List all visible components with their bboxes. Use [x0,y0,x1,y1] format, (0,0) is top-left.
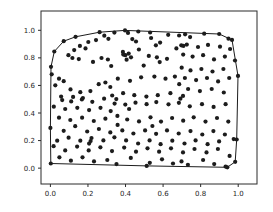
scatter-point [158,60,162,64]
scatter-point [204,150,208,154]
scatter-point [179,159,183,163]
scatter-point [165,57,169,61]
scatter-point [68,118,72,122]
scatter-point [97,82,101,86]
scatter-point [99,56,103,60]
scatter-point [221,67,225,71]
scatter-point [156,93,160,97]
scatter-point [154,132,158,136]
scatter-point [80,155,84,159]
scatter-point [106,57,110,61]
scatter-point [78,139,82,143]
scatter-point [129,156,133,160]
scatter-point [203,120,207,124]
scatter-point [226,120,230,124]
scatter-point [170,116,174,120]
scatter-point [145,102,149,106]
scatter-point [127,107,131,111]
scatter-point [159,120,163,124]
scatter-point [101,138,105,142]
scatter-point [188,68,192,72]
scatter-point [224,102,228,106]
scatter-point [63,107,67,111]
scatter-point [114,97,118,101]
scatter-point [177,101,181,105]
y-tick-label: 0.4 [24,110,36,118]
scatter-point [145,164,149,168]
scatter-point [181,94,185,98]
scatter-point [201,53,205,57]
scatter-point [192,147,196,151]
scatter-point [143,128,147,132]
scatter-point [149,36,153,40]
scatter-point [74,35,78,39]
scatter-point [94,38,98,42]
scatter-point [108,130,112,134]
scatter-point [98,30,102,34]
scatter-point [177,82,181,86]
scatter-point [216,147,220,151]
scatter-point [154,43,158,47]
scatter-point [103,80,107,84]
scatter-point [158,41,162,45]
scatter-point [216,79,220,83]
scatter-point [148,30,152,34]
scatter-point [194,138,198,142]
scatter-point [62,39,66,43]
scatter-point [212,162,216,166]
scatter-point [165,128,169,132]
scatter-point [52,105,56,109]
scatter-point [133,101,137,105]
scatter-point [124,138,128,142]
scatter-point [155,55,159,59]
scatter-point [147,54,151,58]
scatter-point [57,77,61,81]
x-tick-label: 0.4 [120,190,132,198]
scatter-point [87,108,91,112]
scatter-point [67,136,71,140]
x-tick-label: 0.0 [45,190,56,198]
scatter-point [57,155,61,159]
scatter-point [125,117,129,121]
scatter-point [105,158,109,162]
scatter-point [80,97,84,101]
x-tick-label: 0.8 [195,190,206,198]
scatter-point [57,116,61,120]
scatter-point [181,53,185,57]
scatter-point [77,57,81,61]
scatter-point [88,89,92,93]
scatter-point [66,53,70,57]
scatter-point [205,76,209,80]
scatter-point [86,40,90,44]
scatter-point [108,85,112,89]
scatter-point [174,46,178,50]
scatter-point [206,43,210,47]
scatter-point [196,45,200,49]
scatter-point [233,58,237,62]
scatter-point [166,102,170,106]
scatter-point [120,128,124,132]
scatter-point [85,129,89,133]
scatter-point [114,162,118,166]
scatter-point [112,30,116,34]
scatter-point [233,160,237,164]
scatter-point [73,124,77,128]
scatter-point [137,47,141,51]
scatter-point [71,95,75,99]
scatter-point [148,161,152,165]
scatter-point [102,97,106,101]
scatter-point [49,65,53,69]
scatter-point [160,157,164,161]
scatter-point [129,55,133,59]
scatter-point [87,142,91,146]
scatter-point [60,98,64,102]
scatter-point [163,77,167,81]
scatter-point [137,119,141,123]
scatter-point [121,91,125,95]
scatter-point [177,131,181,135]
scatter-point [132,93,136,97]
scatter-point [198,89,202,93]
scatter-point [53,83,57,87]
x-tick-label: 0.6 [158,190,170,198]
matplotlib-figure: 0.00.20.40.60.81.0 0.00.20.40.60.81.0 [0,0,273,212]
